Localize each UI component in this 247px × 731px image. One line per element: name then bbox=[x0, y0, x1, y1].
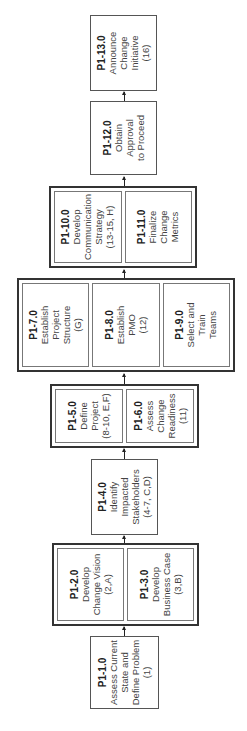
step-text: (11) bbox=[177, 408, 188, 424]
step-text: Train bbox=[196, 314, 207, 335]
step-p1-3-0: P1-3.0 Develop Business Case (3,B) bbox=[127, 548, 194, 621]
step-text: (4-7, C,D) bbox=[141, 476, 152, 518]
flow-arrow bbox=[124, 374, 125, 384]
step-text: Change bbox=[118, 36, 129, 69]
step-text: Change bbox=[158, 210, 169, 243]
group-7-8-9: P1-7.0 Establish Project Structure (G) P… bbox=[17, 278, 235, 372]
step-id: P1-12.0 bbox=[102, 120, 113, 155]
step-text: (8-10, E,F) bbox=[100, 393, 111, 438]
step-id: P1-13.0 bbox=[96, 35, 107, 70]
step-text: Identify bbox=[108, 482, 119, 513]
step-text: Establish bbox=[39, 306, 50, 345]
step-p1-4-0: P1-4.0 Identify Impacted Stakeholders (4… bbox=[91, 459, 158, 535]
step-text: Teams bbox=[207, 311, 218, 339]
step-text: (13-15, H) bbox=[104, 206, 115, 249]
step-p1-5-0: P1-5.0 Define Project (8-10, E,F) bbox=[55, 389, 123, 443]
step-text: Establish bbox=[115, 306, 126, 345]
flow-arrow bbox=[124, 536, 125, 543]
step-p1-12-0: P1-12.0 Obtain Approval to Proceed bbox=[90, 101, 157, 175]
step-text: Select and bbox=[185, 303, 196, 348]
step-text: (16) bbox=[140, 45, 151, 62]
step-text: Initiative bbox=[129, 36, 140, 71]
step-text: (12) bbox=[137, 317, 148, 334]
step-text: Approval bbox=[124, 119, 135, 157]
step-text: (2,A) bbox=[102, 574, 113, 595]
step-p1-11-0: P1-11.0 Finalize Change Metrics bbox=[125, 191, 193, 263]
step-text: Stakeholders bbox=[130, 469, 141, 524]
step-p1-10-0: P1-10.0 Develop Communication Strategy (… bbox=[54, 191, 122, 263]
step-p1-1-0: P1-1.0 Assess Current State and Define P… bbox=[90, 636, 159, 709]
step-text: Structure bbox=[61, 306, 72, 345]
step-p1-7-0: P1-7.0 Establish Project Structure (G) bbox=[22, 283, 89, 367]
flow-arrow bbox=[124, 627, 125, 636]
group-5-6: P1-5.0 Define Project (8-10, E,F) P1-6.0… bbox=[50, 384, 199, 448]
step-text: Finalize bbox=[147, 211, 158, 244]
step-text: Develop bbox=[80, 567, 91, 602]
step-text: Metrics bbox=[169, 212, 180, 243]
flow-arrow bbox=[124, 449, 125, 459]
step-p1-13-0: P1-13.0 Announce Change Initiative (16) bbox=[90, 15, 157, 91]
step-text: Assess Change bbox=[144, 392, 166, 440]
step-text: Strategy bbox=[93, 209, 104, 244]
flow-arrow bbox=[124, 177, 125, 186]
step-text: (G) bbox=[72, 318, 83, 332]
step-id: P1-7.0 bbox=[28, 310, 39, 339]
process-flow-diagram: P1-1.0 Assess Current State and Define P… bbox=[0, 0, 247, 731]
step-p1-9-0: P1-9.0 Select and Train Teams bbox=[163, 283, 230, 367]
step-text: Develop bbox=[150, 567, 161, 602]
step-id: P1-2.0 bbox=[69, 570, 80, 599]
step-id: P1-10.0 bbox=[60, 209, 71, 244]
group-10-11: P1-10.0 Develop Communication Strategy (… bbox=[49, 186, 197, 268]
step-text: Define Problem bbox=[130, 640, 141, 705]
step-id: P1-4.0 bbox=[97, 482, 108, 511]
step-text: Readiness bbox=[166, 394, 177, 439]
step-id: P1-11.0 bbox=[136, 210, 147, 244]
step-text: Business Case bbox=[161, 553, 172, 616]
step-id: P1-9.0 bbox=[174, 310, 185, 339]
group-2-3: P1-2.0 Develop Change Vision (2,A) P1-3.… bbox=[52, 543, 199, 626]
step-p1-6-0: P1-6.0 Assess Change Readiness (11) bbox=[126, 389, 194, 443]
step-text: Obtain bbox=[113, 124, 124, 152]
step-p1-8-0: P1-8.0 Establish PMO (12) bbox=[92, 283, 159, 367]
step-text: (3,B) bbox=[172, 574, 183, 595]
step-text: Develop bbox=[71, 210, 82, 245]
step-text: PMO bbox=[126, 314, 137, 336]
step-text: to Proceed bbox=[135, 115, 146, 161]
step-text: Define Project bbox=[78, 392, 100, 440]
step-id: P1-6.0 bbox=[133, 401, 144, 430]
step-id: P1-1.0 bbox=[97, 658, 108, 687]
step-text: State and bbox=[119, 652, 130, 693]
step-id: P1-8.0 bbox=[104, 310, 115, 339]
step-text: Assess Current bbox=[108, 640, 119, 705]
step-text: Change Vision bbox=[91, 554, 102, 616]
step-id: P1-3.0 bbox=[139, 570, 150, 599]
step-text: Project bbox=[50, 310, 61, 340]
step-text: Communication bbox=[82, 194, 93, 260]
step-id: P1-5.0 bbox=[67, 401, 78, 430]
flow-arrow bbox=[124, 92, 125, 101]
step-text: Announce bbox=[107, 32, 118, 75]
step-text: (1) bbox=[141, 667, 152, 679]
flow-arrow bbox=[124, 270, 125, 278]
step-text: Impacted bbox=[119, 477, 130, 516]
step-p1-2-0: P1-2.0 Develop Change Vision (2,A) bbox=[57, 548, 124, 621]
